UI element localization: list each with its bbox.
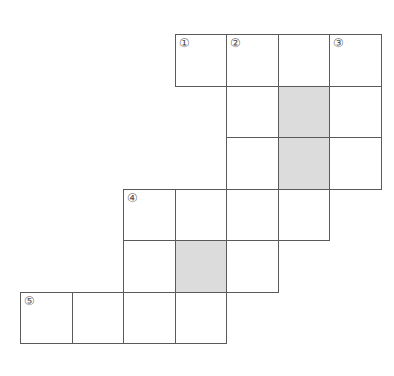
grid-cell[interactable]: [226, 137, 279, 190]
clue-number: ③: [333, 37, 344, 49]
shaded-cell: [175, 240, 227, 293]
grid-cell[interactable]: [123, 292, 176, 344]
grid-cell[interactable]: [329, 86, 382, 138]
numbered-cell[interactable]: ⑤: [20, 292, 73, 344]
grid-cell[interactable]: [226, 189, 279, 241]
numbered-cell[interactable]: ④: [123, 189, 176, 241]
grid-cell[interactable]: [123, 240, 176, 293]
clue-number: ①: [179, 37, 190, 49]
clue-number: ②: [230, 37, 241, 49]
grid-cell[interactable]: [226, 240, 279, 293]
grid-cell[interactable]: [175, 292, 227, 344]
numbered-cell[interactable]: ①: [175, 34, 227, 87]
grid-cell[interactable]: [329, 137, 382, 190]
crossword-grid: ①②③④⑤: [0, 0, 394, 376]
numbered-cell[interactable]: ②: [226, 34, 279, 87]
grid-cell[interactable]: [278, 34, 330, 87]
grid-cell[interactable]: [72, 292, 124, 344]
grid-cell[interactable]: [226, 86, 279, 138]
numbered-cell[interactable]: ③: [329, 34, 382, 87]
shaded-cell: [278, 86, 330, 138]
clue-number: ④: [127, 192, 138, 204]
shaded-cell: [278, 137, 330, 190]
grid-cell[interactable]: [175, 189, 227, 241]
grid-cell[interactable]: [278, 189, 330, 241]
clue-number: ⑤: [24, 295, 35, 307]
